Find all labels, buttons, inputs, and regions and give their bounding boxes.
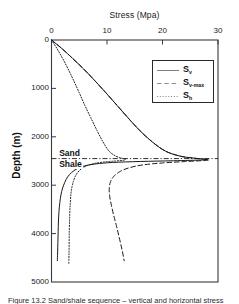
legend-item-S_v-max: Sv-max	[153, 77, 213, 90]
legend-label-S_v: Sv	[183, 64, 192, 74]
legend-swatch-S_h	[157, 96, 179, 97]
shale-label: Shale	[58, 160, 83, 169]
legend-label-S_h: Sh	[183, 90, 192, 100]
sand-label: Sand	[58, 149, 81, 158]
legend-swatch-S_v-max	[157, 83, 179, 84]
legend-item-S_v: Sv	[153, 64, 213, 77]
chart-legend: SvSv-maxSh	[152, 60, 214, 103]
plot-area	[0, 0, 239, 304]
legend-swatch-S_v	[157, 70, 179, 71]
stress-depth-figure: Stress (Mpa) 0102030 0100020003000400050…	[0, 0, 239, 304]
legend-item-S_h: Sh	[153, 90, 213, 103]
legend-label-S_v-max: Sv-max	[183, 77, 204, 87]
figure-caption: Figure 13.2 Sand/shale sequence – vertic…	[8, 296, 232, 304]
